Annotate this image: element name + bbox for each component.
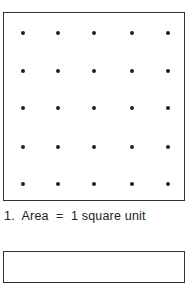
grid-dot xyxy=(56,182,60,186)
grid-dot xyxy=(130,182,134,186)
grid-dot xyxy=(166,145,170,149)
grid-dot xyxy=(21,145,25,149)
grid-dot xyxy=(166,31,170,35)
grid-dot xyxy=(130,31,134,35)
grid-dot xyxy=(166,69,170,73)
grid-dot xyxy=(21,31,25,35)
grid-dot xyxy=(92,182,96,186)
dot-grid-box xyxy=(3,12,185,201)
grid-dot xyxy=(166,106,170,110)
grid-dot xyxy=(130,145,134,149)
grid-dot xyxy=(166,182,170,186)
grid-dot xyxy=(56,69,60,73)
figure-caption: 1. Area = 1 square unit xyxy=(4,209,146,223)
grid-dot xyxy=(92,69,96,73)
next-dot-grid-box xyxy=(3,251,185,283)
grid-dot xyxy=(21,182,25,186)
grid-dot xyxy=(21,69,25,73)
grid-dot xyxy=(21,106,25,110)
grid-dot xyxy=(92,31,96,35)
grid-dot xyxy=(130,69,134,73)
grid-dot xyxy=(56,106,60,110)
grid-dot xyxy=(92,106,96,110)
grid-dot xyxy=(130,106,134,110)
grid-dot xyxy=(56,31,60,35)
grid-dot xyxy=(92,145,96,149)
grid-dot xyxy=(56,145,60,149)
